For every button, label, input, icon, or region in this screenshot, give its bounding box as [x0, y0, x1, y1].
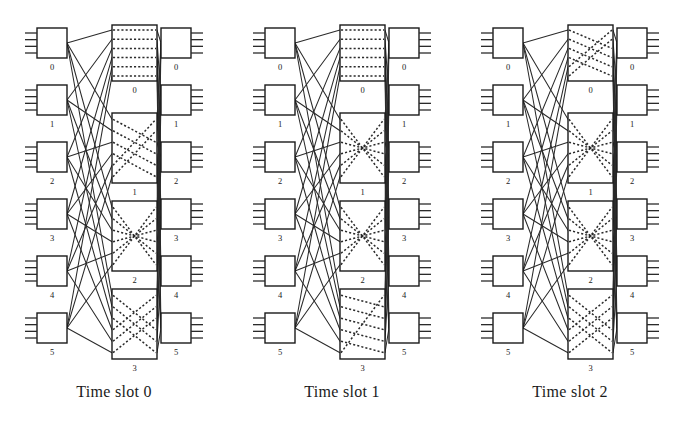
time-slot-panel-2: 0123012345012345Time slot 2 [456, 0, 684, 429]
svg-text:1: 1 [174, 119, 178, 129]
svg-text:0: 0 [174, 62, 178, 72]
time-slot-panel-0: 0123012345012345Time slot 0 [0, 0, 228, 429]
time-slot-panel-1: 0123012345012345Time slot 1 [228, 0, 456, 429]
svg-text:3: 3 [278, 233, 282, 243]
svg-text:4: 4 [630, 290, 635, 300]
svg-text:3: 3 [506, 233, 510, 243]
svg-text:2: 2 [50, 176, 54, 186]
svg-text:0: 0 [588, 85, 592, 95]
clos-network-graph-1: 0123012345012345 [228, 0, 456, 380]
svg-text:3: 3 [132, 363, 136, 373]
clos-network-graph-0: 0123012345012345 [0, 0, 228, 380]
svg-text:5: 5 [174, 347, 178, 357]
svg-text:2: 2 [630, 176, 634, 186]
svg-text:2: 2 [174, 176, 178, 186]
svg-text:3: 3 [588, 363, 592, 373]
svg-text:1: 1 [588, 187, 592, 197]
svg-text:2: 2 [506, 176, 510, 186]
svg-text:2: 2 [588, 275, 592, 285]
svg-text:4: 4 [278, 290, 283, 300]
svg-text:0: 0 [278, 62, 282, 72]
svg-text:1: 1 [132, 187, 136, 197]
svg-text:5: 5 [402, 347, 406, 357]
svg-text:5: 5 [278, 347, 282, 357]
svg-text:3: 3 [630, 233, 634, 243]
svg-text:5: 5 [630, 347, 634, 357]
svg-text:5: 5 [50, 347, 54, 357]
svg-text:0: 0 [360, 85, 364, 95]
svg-text:0: 0 [402, 62, 406, 72]
svg-text:1: 1 [360, 187, 364, 197]
svg-text:2: 2 [360, 275, 364, 285]
svg-text:2: 2 [132, 275, 136, 285]
clos-network-graph-2: 0123012345012345 [456, 0, 684, 380]
svg-text:1: 1 [506, 119, 510, 129]
svg-text:2: 2 [402, 176, 406, 186]
svg-text:4: 4 [174, 290, 179, 300]
panel-caption-2: Time slot 2 [456, 383, 684, 401]
svg-text:1: 1 [402, 119, 406, 129]
svg-text:5: 5 [506, 347, 510, 357]
svg-text:0: 0 [50, 62, 54, 72]
panel-caption-0: Time slot 0 [0, 383, 228, 401]
svg-text:1: 1 [50, 119, 54, 129]
svg-text:2: 2 [278, 176, 282, 186]
svg-text:1: 1 [278, 119, 282, 129]
svg-text:4: 4 [506, 290, 511, 300]
svg-text:0: 0 [630, 62, 634, 72]
svg-text:0: 0 [132, 85, 136, 95]
svg-text:1: 1 [630, 119, 634, 129]
svg-text:3: 3 [50, 233, 54, 243]
svg-text:0: 0 [506, 62, 510, 72]
svg-text:3: 3 [360, 363, 364, 373]
svg-text:3: 3 [402, 233, 406, 243]
figure-root: 0123012345012345Time slot 00123012345012… [0, 0, 684, 429]
panel-caption-1: Time slot 1 [228, 383, 456, 401]
svg-text:3: 3 [174, 233, 178, 243]
svg-text:4: 4 [50, 290, 55, 300]
svg-text:4: 4 [402, 290, 407, 300]
